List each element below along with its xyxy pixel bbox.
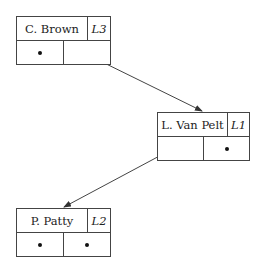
left-pointer (158, 137, 204, 160)
node-name: P. Patty (17, 209, 88, 232)
right-pointer-null (204, 137, 249, 160)
right-pointer (64, 41, 110, 64)
left-pointer-null (17, 41, 64, 64)
null-dot-icon (85, 243, 89, 247)
null-dot-icon (38, 51, 42, 55)
node-name: C. Brown (17, 17, 88, 40)
node-name: L. Van Pelt (158, 113, 228, 136)
node-l-van-pelt: L. Van Pelt L1 (157, 112, 250, 161)
node-label: L2 (88, 209, 110, 232)
node-p-patty: P. Patty L2 (16, 208, 111, 257)
null-dot-icon (225, 147, 229, 151)
node-c-brown: C. Brown L3 (16, 16, 111, 65)
left-pointer-null (17, 233, 64, 256)
node-label: L3 (88, 17, 110, 40)
null-dot-icon (38, 243, 42, 247)
node-label: L1 (228, 113, 249, 136)
right-pointer-null (64, 233, 110, 256)
